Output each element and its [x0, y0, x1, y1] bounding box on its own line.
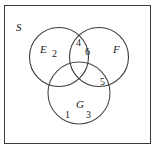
universal-set-rectangle: [5, 6, 151, 144]
region-count-EF-lower: 6: [85, 47, 90, 57]
venn-diagram-canvas: [0, 0, 156, 149]
universal-set-label: S: [16, 22, 22, 33]
region-count-FG: 5: [100, 77, 105, 87]
set-label-G: G: [76, 99, 84, 110]
set-label-E: E: [40, 44, 47, 55]
venn-diagram-figure: S E F G 2 4 6 5 1 3: [0, 0, 156, 149]
region-count-G-only-left: 1: [65, 110, 70, 120]
region-count-G-only-right: 3: [86, 110, 91, 120]
set-label-F: F: [113, 44, 120, 55]
region-count-E-only: 2: [52, 49, 57, 59]
region-count-EF-upper: 4: [76, 38, 81, 48]
